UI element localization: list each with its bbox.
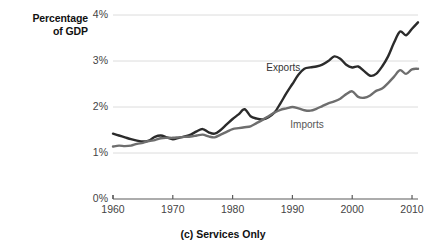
x-tick-label: 1980: [211, 203, 255, 215]
series-label-exports: Exports: [266, 62, 300, 73]
series-line-exports: [113, 22, 418, 141]
x-tick-label: 1990: [270, 203, 314, 215]
x-tick-label: 2010: [390, 203, 434, 215]
gridlines-group: [113, 15, 418, 153]
y-tick-label: 4%: [84, 8, 108, 20]
services-only-line-chart: Percentage of GDP 0%1%2%3%4% 19601970198…: [0, 0, 446, 247]
x-tick-label: 2000: [330, 203, 374, 215]
series-paths-group: [113, 22, 418, 146]
x-tick-label: 1970: [151, 203, 195, 215]
y-tick-label: 1%: [84, 146, 108, 158]
y-tick-label: 3%: [84, 54, 108, 66]
y-tick-label: 2%: [84, 100, 108, 112]
series-label-imports: Imports: [290, 119, 323, 130]
chart-caption: (c) Services Only: [0, 228, 446, 240]
x-tick-label: 1960: [91, 203, 135, 215]
